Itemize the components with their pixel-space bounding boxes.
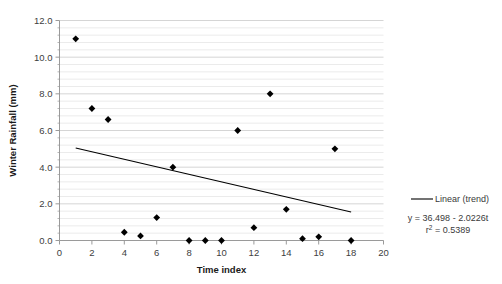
x-tick-label: 10	[216, 247, 227, 258]
trend-equation: y = 36.498 - 2.0226t	[408, 213, 489, 223]
chart-container: 02468101214161820 0.02.04.06.08.010.012.…	[0, 0, 502, 284]
y-tick-label: 12.0	[34, 15, 53, 26]
y-tick-label: 4.0	[39, 162, 52, 173]
x-tick-label: 14	[281, 247, 292, 258]
x-tick-label: 4	[122, 247, 127, 258]
x-tick-label: 12	[249, 247, 260, 258]
y-tick-label: 6.0	[39, 125, 52, 136]
scatter-chart: 02468101214161820 0.02.04.06.08.010.012.…	[0, 0, 502, 284]
x-tick-label: 16	[313, 247, 324, 258]
x-tick-label: 20	[378, 247, 389, 258]
r-squared-value: r2 = 0.5389	[426, 224, 470, 235]
x-tick-label: 6	[154, 247, 159, 258]
y-axis-title: Winter Rainfall (mm)	[7, 84, 18, 176]
y-tick-label: 0.0	[39, 235, 52, 246]
y-tick-label: 8.0	[39, 88, 52, 99]
x-tick-label: 18	[346, 247, 357, 258]
x-axis-title: Time index	[197, 264, 247, 275]
y-tick-label: 10.0	[34, 52, 53, 63]
y-tick-label: 2.0	[39, 198, 52, 209]
x-tick-label: 0	[57, 247, 62, 258]
x-tick-label: 8	[186, 247, 191, 258]
legend-trend-label: Linear (trend)	[435, 194, 489, 204]
x-tick-label: 2	[89, 247, 94, 258]
